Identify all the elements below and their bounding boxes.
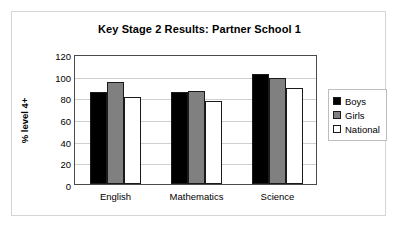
- legend-swatch-girls: [333, 111, 341, 119]
- bar-boys-mathematics: [171, 92, 188, 184]
- bar-national-english: [124, 97, 141, 184]
- y-axis-tick-label: 100: [31, 72, 71, 83]
- legend-item-boys: Boys: [333, 94, 380, 108]
- bar-national-science: [286, 88, 303, 184]
- legend-label: Boys: [345, 96, 366, 107]
- bar-girls-mathematics: [188, 91, 205, 184]
- legend-label: Girls: [345, 110, 365, 121]
- y-axis-tick-label: 120: [31, 51, 71, 62]
- y-axis-tick-label: 20: [31, 159, 71, 170]
- legend-label: National: [345, 124, 380, 135]
- y-axis-title: % level 4+: [18, 55, 32, 185]
- bar-girls-science: [269, 78, 286, 184]
- legend-swatch-national: [333, 125, 341, 133]
- y-axis-tick-label: 60: [31, 116, 71, 127]
- legend-item-national: National: [333, 122, 380, 136]
- bar-group: Science: [237, 56, 318, 184]
- chart-legend: BoysGirlsNational: [328, 89, 387, 141]
- y-axis-tick-label: 80: [31, 94, 71, 105]
- legend-swatch-boys: [333, 97, 341, 105]
- legend-item-girls: Girls: [333, 108, 380, 122]
- bar-national-mathematics: [205, 101, 222, 184]
- bar-boys-english: [90, 92, 107, 184]
- bar-boys-science: [252, 74, 269, 185]
- x-axis-tick-label: English: [100, 191, 131, 202]
- y-axis-title-text: % level 4+: [20, 97, 31, 143]
- bar-girls-english: [107, 82, 124, 184]
- bar-group: English: [75, 56, 156, 184]
- x-axis-tick-label: Mathematics: [170, 191, 224, 202]
- plot-area: 020406080100120EnglishMathematicsScience: [74, 55, 317, 185]
- y-axis-tick-label: 40: [31, 137, 71, 148]
- chart-container: Key Stage 2 Results: Partner School 1 % …: [11, 11, 386, 216]
- x-axis-tick-label: Science: [261, 191, 295, 202]
- y-axis-tick-label: 0: [31, 181, 71, 192]
- chart-title: Key Stage 2 Results: Partner School 1: [12, 23, 387, 35]
- bar-group: Mathematics: [156, 56, 237, 184]
